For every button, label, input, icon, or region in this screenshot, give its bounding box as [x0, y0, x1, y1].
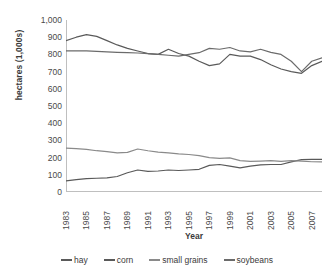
x-axis-tick-label: 2003 [267, 211, 276, 230]
x-axis-tick-label: 1997 [205, 211, 214, 230]
y-axis-title: hectares (1,000s) [14, 0, 24, 130]
legend-label: corn [117, 255, 134, 265]
x-axis-title: Year [66, 231, 322, 241]
legend-swatch-icon [149, 259, 160, 261]
y-axis-tick-label: 600 [28, 85, 62, 94]
y-axis-tick-label: 1,000 [28, 16, 62, 25]
series-line-small-grains [66, 148, 322, 162]
x-axis-tick-label: 1999 [226, 211, 235, 230]
series-line-soybeans [66, 48, 322, 72]
y-axis-tick-labels: 1,0009008007006005004003002001000 [26, 0, 62, 273]
y-axis-tick-label: 800 [28, 50, 62, 59]
line-chart: hectares (1,000s) 1,00090080070060050040… [0, 0, 334, 273]
x-axis-tick-label: 1995 [185, 211, 194, 230]
legend-item-hay[interactable]: hay [61, 255, 88, 265]
legend-swatch-icon [224, 259, 235, 261]
y-axis-tick-label: 100 [28, 171, 62, 180]
legend-label: small grains [162, 255, 207, 265]
y-axis-tick-label: 400 [28, 119, 62, 128]
y-axis-tick-label: 300 [28, 136, 62, 145]
legend-swatch-icon [61, 259, 72, 261]
legend-item-corn[interactable]: corn [104, 255, 134, 265]
legend-swatch-icon [104, 259, 115, 261]
x-axis-tick-label: 1985 [82, 211, 91, 230]
y-axis-tick-label: 0 [28, 188, 62, 197]
plot-svg [66, 20, 322, 192]
x-axis-tick-label: 1987 [103, 211, 112, 230]
x-axis-tick-label: 1993 [164, 211, 173, 230]
y-axis-tick-label: 500 [28, 102, 62, 111]
chart-legend: haycornsmall grainssoybeans [0, 252, 334, 268]
y-axis-tick-label: 700 [28, 68, 62, 77]
legend-label: hay [74, 255, 88, 265]
x-axis-tick-label: 2001 [246, 211, 255, 230]
x-axis-tick-label: 2005 [287, 211, 296, 230]
x-axis-tick-label: 1989 [123, 211, 132, 230]
y-axis-tick-label: 900 [28, 33, 62, 42]
series-line-corn [66, 159, 322, 181]
legend-label: soybeans [237, 255, 273, 265]
y-axis-tick-label: 200 [28, 154, 62, 163]
legend-item-small-grains[interactable]: small grains [149, 255, 207, 265]
legend-item-soybeans[interactable]: soybeans [224, 255, 273, 265]
x-axis-tick-label: 1983 [62, 211, 71, 230]
x-axis-tick-label: 2007 [308, 211, 317, 230]
x-axis-tick-label: 1991 [144, 211, 153, 230]
plot-area [66, 20, 322, 192]
x-axis-tick-labels: 1983198519871989199119931995199719992001… [66, 194, 322, 230]
